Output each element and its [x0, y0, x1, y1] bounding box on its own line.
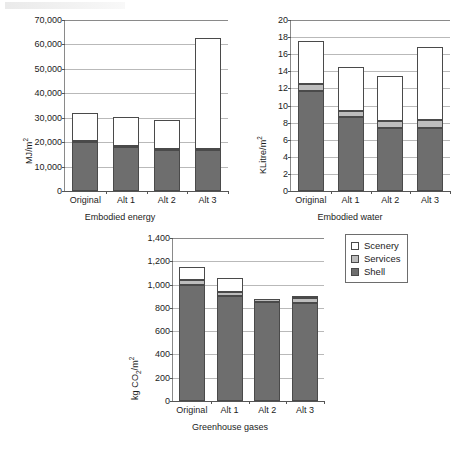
y-axis-tick-mark [288, 157, 291, 158]
x-axis-tick-label: Original [295, 195, 326, 205]
bar-segment-shell [72, 142, 98, 191]
y-axis-tick-mark [62, 191, 65, 192]
bar-alt-1 [113, 20, 139, 191]
bar-segment-scenery [195, 38, 221, 149]
scan-artifact [5, 2, 125, 9]
x-axis-tick-mark [211, 401, 212, 404]
x-axis-tick-label: Alt 2 [258, 405, 276, 415]
y-axis-tick-label: 400 [155, 349, 170, 359]
bar-segment-scenery [417, 47, 443, 120]
bar-segment-services [298, 84, 324, 91]
x-axis-tick-label: Alt 2 [381, 195, 399, 205]
bar-segment-services [377, 121, 403, 128]
y-axis-tick-mark [170, 331, 173, 332]
y-axis-tick-mark [170, 261, 173, 262]
y-axis-tick-mark [288, 140, 291, 141]
x-axis-tick-label: Alt 1 [117, 195, 135, 205]
x-axis-tick-label: Alt 1 [342, 195, 360, 205]
bar-segment-shell [377, 128, 403, 191]
chart-panel-embodied-energy: MJ/m2 010,00020,00030,00040,00050,00060,… [0, 14, 240, 224]
chart-panel-embodied-water: KLitre/m2 02468101214161820OriginalAlt 1… [240, 14, 460, 224]
legend: Scenery Services Shell [345, 234, 408, 283]
legend-label: Scenery [364, 239, 399, 252]
y-axis-tick-mark [288, 20, 291, 21]
shell-swatch-icon [351, 268, 359, 276]
scenery-swatch-icon [351, 242, 359, 250]
y-axis-tick-mark [170, 354, 173, 355]
bar-alt-3 [292, 238, 318, 401]
x-axis-tick-mark [106, 191, 107, 194]
plot-area: 010,00020,00030,00040,00050,00060,00070,… [64, 20, 228, 192]
x-axis-tick-label: Original [176, 405, 207, 415]
bar-segment-services [72, 141, 98, 143]
services-swatch-icon [351, 255, 359, 263]
bar-alt-2 [154, 20, 180, 191]
x-axis-tick-label: Alt 1 [221, 405, 239, 415]
y-axis-tick-label: 50,000 [34, 64, 62, 74]
y-axis-tick-label: 600 [155, 326, 170, 336]
bar-segment-scenery [179, 267, 205, 280]
x-axis-tick-mark [286, 401, 287, 404]
bar-segment-services [338, 111, 364, 117]
bar-segment-shell [292, 303, 318, 401]
y-axis-tick-label: 16 [278, 49, 288, 59]
bar-original [179, 238, 205, 401]
bar-alt-2 [254, 238, 280, 401]
y-axis-tick-label: 12 [278, 83, 288, 93]
y-axis-tick-mark [62, 44, 65, 45]
bar-segment-scenery [113, 117, 139, 146]
bar-segment-services [217, 292, 243, 297]
bar-segment-shell [154, 150, 180, 191]
bar-segment-services [113, 146, 139, 148]
bar-alt-1 [338, 20, 364, 191]
x-axis-label: Greenhouse gases [110, 422, 350, 432]
y-axis-tick-mark [288, 37, 291, 38]
bar-segment-scenery [338, 67, 364, 111]
y-axis-tick-mark [170, 378, 173, 379]
y-axis-tick-mark [62, 20, 65, 21]
bar-segment-shell [417, 128, 443, 191]
bar-original [298, 20, 324, 191]
bar-segment-scenery [154, 120, 180, 149]
bar-segment-services [417, 120, 443, 128]
bar-alt-1 [217, 238, 243, 401]
x-axis-tick-label: Alt 3 [199, 195, 217, 205]
x-axis-tick-mark [228, 191, 229, 194]
bar-segment-scenery [377, 76, 403, 120]
bar-segment-services [254, 299, 280, 302]
x-axis-tick-label: Alt 2 [158, 195, 176, 205]
y-axis-tick-label: 30,000 [34, 113, 62, 123]
y-axis-label: kg CO2/m2 [128, 357, 142, 400]
y-axis-tick-mark [170, 238, 173, 239]
legend-label: Services [364, 252, 400, 265]
bar-alt-3 [195, 20, 221, 191]
x-axis-tick-mark [249, 401, 250, 404]
bar-alt-3 [417, 20, 443, 191]
x-axis-label: Embodied water [240, 212, 460, 222]
bar-segment-shell [217, 296, 243, 401]
y-axis-tick-label: 10 [278, 101, 288, 111]
bar-original [72, 20, 98, 191]
y-axis-tick-label: 1,000 [147, 280, 170, 290]
y-axis-tick-mark [288, 106, 291, 107]
bar-segment-scenery [72, 113, 98, 142]
chart-panel-greenhouse-gases: kg CO2/m2 02004006008001,0001,2001,400Or… [110, 230, 350, 440]
x-axis-tick-mark [147, 191, 148, 194]
y-axis-tick-mark [170, 308, 173, 309]
x-axis-tick-label: Alt 3 [421, 195, 439, 205]
bar-segment-shell [195, 150, 221, 191]
bar-alt-2 [377, 20, 403, 191]
x-axis-tick-label: Original [70, 195, 101, 205]
y-axis-tick-mark [288, 174, 291, 175]
bar-segment-shell [179, 285, 205, 401]
y-axis-tick-mark [288, 54, 291, 55]
y-axis-tick-label: 10,000 [34, 162, 62, 172]
y-axis-tick-label: 200 [155, 373, 170, 383]
bar-segment-scenery [292, 296, 318, 298]
y-axis-tick-mark [288, 191, 291, 192]
legend-item-scenery: Scenery [351, 239, 400, 252]
bar-segment-scenery [217, 278, 243, 292]
bar-segment-services [292, 298, 318, 303]
plot-area: 02468101214161820OriginalAlt 1Alt 2Alt 3 [290, 20, 450, 192]
bar-segment-services [154, 149, 180, 151]
